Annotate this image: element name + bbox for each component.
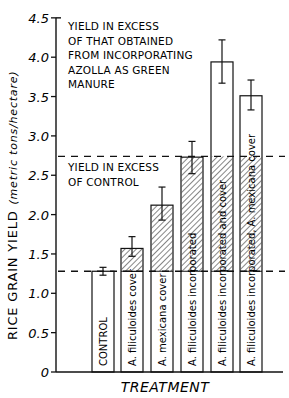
y-tick-label: 0 [41, 365, 49, 380]
annotation-upper-line: YIELD IN EXCESS [67, 20, 159, 32]
y-tick-label: 2.0 [28, 208, 49, 223]
annotation-upper-line: FROM INCORPORATING [68, 49, 193, 61]
y-tick-label: 2.5 [28, 168, 49, 183]
x-axis-title: TREATMENT [121, 379, 211, 395]
bar-category-label: CONTROL [98, 317, 109, 366]
bar-chart: CONTROLA. filiculoides coverA. mexicana … [0, 0, 289, 398]
bar-category-label: A. filiculoides incorporated [187, 233, 198, 366]
y-axis-title-units: (metric tons/hectare) [7, 71, 20, 205]
y-axis-title-main: RICE GRAIN YIELD [5, 211, 20, 341]
bar-category-label: A. filiculoides cover [127, 268, 138, 366]
annotation-upper-line: OF THAT OBTAINED [68, 35, 173, 47]
y-tick-label: 4.5 [28, 11, 49, 26]
annotation-upper-line: AZOLLA AS GREEN [68, 64, 170, 76]
y-tick-label: 4.0 [28, 50, 49, 65]
bar-category-label: A. mexicana cover [157, 273, 168, 366]
annotation-upper-line: MANURE [68, 78, 115, 90]
y-axis-title: RICE GRAIN YIELD(metric tons/hectare) [5, 71, 20, 340]
y-tick-label: 1.5 [28, 247, 49, 262]
y-tick-label: 1.0 [28, 286, 49, 301]
bar-category-label: A. filiculoides incorporated and cover [217, 179, 228, 366]
y-tick-label: 3.0 [28, 129, 49, 144]
annotation-lower-line: OF CONTROL [68, 176, 139, 188]
bar-category-label: A. filiculoides incorporated, A. mexican… [246, 133, 257, 366]
y-tick-label: 0.5 [28, 326, 49, 341]
y-tick-label: 3.5 [28, 90, 49, 105]
annotation-lower-line: YIELD IN EXCESS [67, 161, 159, 173]
